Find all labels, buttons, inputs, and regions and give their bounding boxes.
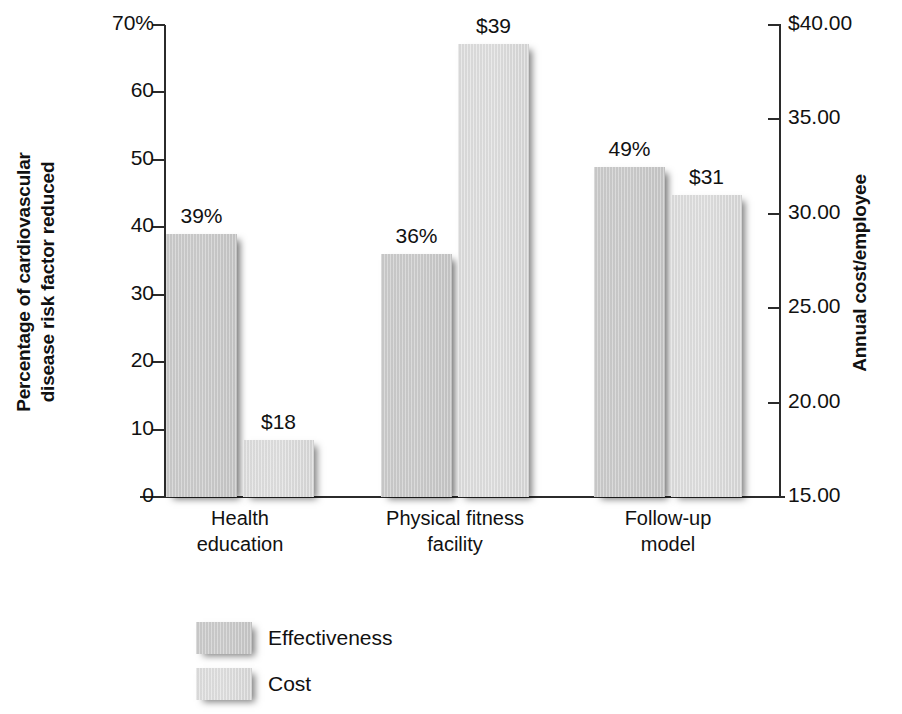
y-axis-left-tick-label: 0 xyxy=(44,483,154,507)
legend: EffectivenessCost xyxy=(196,622,393,714)
y-axis-right-tick-label: 25.00 xyxy=(788,294,841,318)
y-axis-left-tick-label: 50 xyxy=(44,146,154,170)
x-axis-category-label-line: Health xyxy=(136,505,344,531)
y-axis-right-tick-label: 15.00 xyxy=(788,483,841,507)
bar-cost xyxy=(458,44,529,497)
bar-effectiveness xyxy=(166,234,237,497)
x-axis-category-label: Healtheducation xyxy=(136,505,344,557)
bar-value-label: 36% xyxy=(381,224,452,248)
y-axis-right-tick-label: $40.00 xyxy=(788,11,852,35)
bar-cost xyxy=(671,195,742,497)
y-axis-left-tick-label: 10 xyxy=(44,416,154,440)
x-axis-category-label: Physical fitnessfacility xyxy=(351,505,559,557)
legend-item[interactable]: Effectiveness xyxy=(196,622,393,654)
bar-value-label: $39 xyxy=(458,14,529,38)
x-axis-category-label-line: facility xyxy=(351,531,559,557)
y-axis-left-tick-label: 60 xyxy=(44,78,154,102)
y-axis-left-tick-label: 30 xyxy=(44,281,154,305)
bar-value-label: $18 xyxy=(243,410,314,434)
x-axis-category-label: Follow-upmodel xyxy=(564,505,772,557)
y-axis-right-title: Annual cost/employee xyxy=(849,113,871,433)
y-axis-left-tick-label: 70% xyxy=(44,11,154,35)
y-axis-left-tick-label: 20 xyxy=(44,348,154,372)
y-axis-right-line xyxy=(779,25,781,498)
bar-effectiveness xyxy=(381,254,452,497)
y-axis-right-tick-label: 35.00 xyxy=(788,105,841,129)
legend-swatch-cost xyxy=(196,668,252,700)
y-axis-right-tick-label: 20.00 xyxy=(788,389,841,413)
x-axis-category-label-line: education xyxy=(136,531,344,557)
legend-label: Cost xyxy=(268,672,311,696)
legend-item[interactable]: Cost xyxy=(196,668,393,700)
bar-effectiveness xyxy=(594,167,665,497)
y-axis-left-title-line1: Percentage of cardiovascular xyxy=(12,42,36,522)
x-axis-category-label-line: model xyxy=(564,531,772,557)
legend-swatch-effectiveness xyxy=(196,622,252,654)
bar-value-label: 49% xyxy=(594,137,665,161)
legend-label: Effectiveness xyxy=(268,626,393,650)
y-axis-left-tick-label: 40 xyxy=(44,213,154,237)
x-axis-category-label-line: Follow-up xyxy=(564,505,772,531)
bar-cost xyxy=(243,440,314,497)
x-axis-category-label-line: Physical fitness xyxy=(351,505,559,531)
bar-value-label: $31 xyxy=(671,165,742,189)
bar-value-label: 39% xyxy=(166,204,237,228)
y-axis-right-tick-label: 30.00 xyxy=(788,200,841,224)
